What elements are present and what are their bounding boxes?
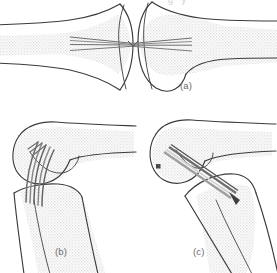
panel-c-group [150, 120, 277, 273]
panel-label-b: (b) [55, 246, 67, 257]
panel-label-c: (c) [193, 246, 205, 257]
figure-container: g y [0, 0, 277, 273]
panel-b-tibia-fill [20, 186, 106, 273]
panel-c-tibia-outline-right [256, 193, 277, 273]
panel-b-group [13, 122, 136, 273]
panel-a-left-bone-outline-bottom [0, 63, 120, 90]
panel-a-pin-3 [70, 45, 133, 46]
figure-illustration [0, 0, 277, 273]
panel-a-left-bone-outline-top [0, 4, 120, 25]
panel-label-a: (a) [180, 80, 192, 91]
panel-b-tibia-outline-left [14, 193, 24, 273]
panel-a-group [0, 2, 277, 91]
panel-c-entry-point-marker [156, 164, 161, 169]
panel-a-left-bone-fill [0, 14, 131, 74]
